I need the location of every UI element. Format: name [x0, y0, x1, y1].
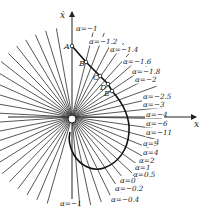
- isocline-ray: [37, 117, 72, 200]
- isocline-label: α=0.5: [133, 170, 156, 179]
- point-label: E: [103, 89, 110, 98]
- isocline-ray: [1, 62, 72, 117]
- point-d: [106, 82, 110, 86]
- isocline-ray: [2, 117, 72, 174]
- isocline-label: α=−1.4: [110, 45, 139, 54]
- point-label: A: [63, 42, 70, 51]
- isocline-label: α=−1.6: [123, 57, 152, 66]
- point-label: B: [78, 59, 85, 68]
- isocline-ray: [72, 117, 145, 170]
- isocline-label: α=−1: [76, 24, 97, 33]
- isocline-label: α=−0.4: [111, 195, 140, 204]
- isocline-label: α=−0.2: [115, 184, 144, 193]
- isocline-label: α=−6: [146, 119, 168, 128]
- phase-plane-svg: x ẋ ABCDE α=−1α=−1.2α=−1.4α=−1.6α=−1.8α=…: [0, 0, 209, 219]
- x-axis-label: x: [194, 119, 199, 129]
- origin-node: [68, 115, 76, 123]
- isocline-label: α=−1: [60, 199, 81, 208]
- isocline-label: α=−4: [146, 110, 168, 119]
- isocline-label: α=−3: [143, 100, 165, 109]
- xdot-axis-label: ẋ: [60, 10, 65, 20]
- isocline-ray: [18, 117, 72, 189]
- isocline-label: α=9: [143, 139, 159, 148]
- point-label: C: [93, 73, 99, 82]
- point-a: [70, 44, 74, 48]
- isocline-ray: [17, 46, 72, 117]
- point-e: [110, 89, 114, 93]
- isocline-ray: [72, 117, 91, 205]
- isocline-label: α=−2: [135, 75, 157, 84]
- isocline-label: α=−11: [146, 128, 172, 137]
- phase-plane-figure: x ẋ ABCDE α=−1α=−1.2α=−1.4α=−1.6α=−1.8α=…: [0, 0, 209, 219]
